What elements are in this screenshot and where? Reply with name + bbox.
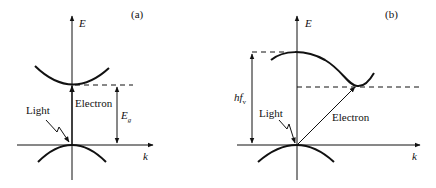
light-label: Light bbox=[259, 107, 283, 119]
band-diagram: (a) E k Electron Light Eg (b) E k Electr… bbox=[0, 0, 436, 188]
photon-energy-label: hfv bbox=[234, 91, 247, 106]
panel-b: (b) E k Electron Light hfv bbox=[234, 8, 420, 180]
light-photon-icon bbox=[46, 120, 69, 142]
panel-a: (a) E k Electron Light Eg bbox=[17, 8, 153, 180]
light-photon-icon bbox=[279, 120, 295, 143]
panel-a-tag: (a) bbox=[131, 8, 144, 21]
electron-label: Electron bbox=[332, 111, 370, 123]
k-axis-label: k bbox=[412, 150, 418, 162]
energy-axis-label: E bbox=[304, 17, 312, 29]
valence-band-curve bbox=[258, 145, 334, 162]
k-axis-label: k bbox=[143, 150, 149, 162]
conduction-band-curve bbox=[271, 52, 374, 86]
band-gap-label: Eg bbox=[120, 109, 132, 124]
energy-axis-label: E bbox=[78, 17, 86, 29]
panel-b-tag: (b) bbox=[385, 8, 398, 21]
light-label: Light bbox=[26, 104, 50, 116]
electron-label: Electron bbox=[75, 97, 113, 109]
